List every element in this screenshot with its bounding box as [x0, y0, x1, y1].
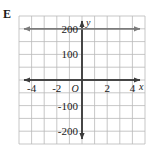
x-tick-label-neg4: -4: [27, 82, 37, 94]
plot-svg: 200 100 -100 -200 -4 -2 2 4 O y x: [18, 15, 146, 145]
y-tick-label-neg100: -100: [58, 100, 79, 112]
coordinate-plane: 200 100 -100 -200 -4 -2 2 4 O y x: [18, 15, 146, 145]
graph-figure: E: [0, 0, 154, 154]
x-tick-label-2: 2: [104, 82, 110, 94]
x-axis-label: x: [138, 81, 144, 92]
x-tick-label-neg2: -2: [52, 82, 61, 94]
y-tick-label-neg200: -200: [58, 125, 79, 137]
problem-label: E: [3, 8, 11, 20]
y-tick-label-200: 200: [62, 23, 79, 35]
x-tick-label-4: 4: [130, 82, 136, 94]
y-axis-label: y: [85, 17, 91, 28]
origin-label: O: [71, 83, 78, 94]
y-tick-label-100: 100: [62, 48, 79, 60]
